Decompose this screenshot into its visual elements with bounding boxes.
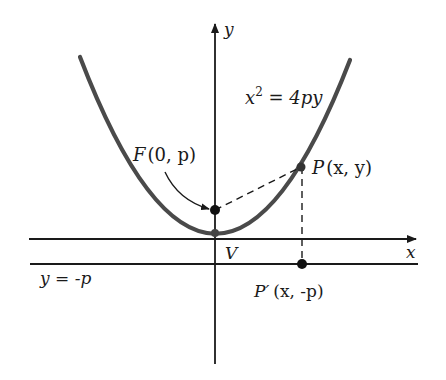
vertex-point: [211, 229, 219, 237]
point-p: [297, 163, 306, 172]
parabola-diagram: y x y = -p x2 = 4py F(0, p) V P(x, y) P′…: [0, 0, 446, 380]
y-axis-label: y: [223, 19, 234, 39]
focus-pointer-arrow: [165, 172, 209, 209]
x-axis-label: x: [406, 242, 416, 262]
directrix-label: y = -p: [39, 268, 91, 288]
parabola-equation: x2 = 4py: [245, 85, 323, 108]
point-p-prime-label: P′(x, -p): [253, 281, 324, 301]
equation-rhs: = 4py: [263, 87, 324, 108]
point-p-label: P(x, y): [311, 157, 372, 178]
focus-point: [210, 205, 220, 215]
point-p-prime: [297, 259, 307, 269]
equation-exponent: 2: [255, 85, 263, 99]
vertex-label: V: [225, 243, 239, 263]
focus-label: F(0, p): [132, 144, 196, 165]
focus-to-p-dashed: [215, 167, 301, 210]
equation-lhs: x: [245, 87, 255, 108]
